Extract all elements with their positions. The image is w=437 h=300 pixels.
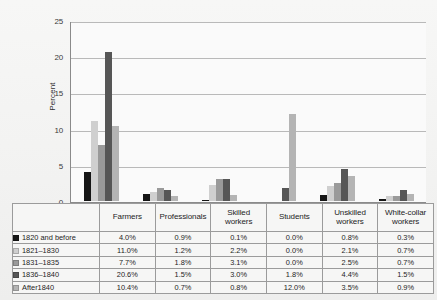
table-value-cell: 0.8%: [322, 232, 378, 244]
table-column-header-line: Farmers: [113, 212, 142, 221]
table-column-header: White-collarworkers: [378, 204, 434, 232]
table-column-header: Professionals: [155, 204, 211, 232]
chart-figure: Percent 0510152025 FarmersProfessionalsS…: [0, 0, 437, 300]
table-value-cell: 7.7%: [100, 256, 156, 268]
legend-label-cell: 1836–1840: [13, 269, 100, 281]
table-value-cell: 4.0%: [100, 232, 156, 244]
table-value-cell: 2.1%: [322, 244, 378, 256]
table-value-cell: 2.5%: [322, 256, 378, 268]
table-column-header-line: White-collar: [385, 208, 426, 217]
bar: [98, 145, 105, 201]
data-table: FarmersProfessionalsSkilledworkersStuden…: [12, 203, 434, 294]
bar: [348, 176, 355, 201]
legend-swatch-icon: [13, 272, 19, 278]
bar: [320, 195, 327, 201]
bar: [379, 199, 386, 201]
table-value-cell: 0.8%: [211, 281, 267, 293]
table-body: 1820 and before4.0%0.9%0.1%0.0%0.8%0.3%1…: [13, 232, 434, 294]
bar-group: [308, 22, 367, 201]
bar: [171, 196, 178, 201]
table-value-cell: 1.5%: [378, 269, 434, 281]
table-column-header: Farmers: [100, 204, 156, 232]
bar: [393, 196, 400, 201]
table-value-cell: 0.7%: [155, 281, 211, 293]
bar: [407, 194, 414, 201]
bar: [230, 195, 237, 201]
table-column-header: Unskilledworkers: [322, 204, 378, 232]
bar: [216, 179, 223, 201]
bar-group: [131, 22, 190, 201]
legend-label-cell: 1831–1835: [13, 256, 100, 268]
plot-area: [70, 22, 426, 203]
table-value-cell: 3.1%: [211, 256, 267, 268]
table-value-cell: 10.4%: [100, 281, 156, 293]
bar: [202, 200, 209, 201]
legend-swatch-icon: [13, 285, 19, 291]
table-column-header-line: workers: [225, 217, 252, 226]
table-value-cell: 0.0%: [266, 256, 322, 268]
legend-label: 1820 and before: [22, 233, 76, 242]
y-axis-tick-label: 15: [39, 90, 63, 98]
bar: [164, 190, 171, 201]
bar: [84, 172, 91, 201]
table-value-cell: 12.0%: [266, 281, 322, 293]
bar: [209, 185, 216, 201]
bar: [400, 190, 407, 201]
legend-swatch-icon: [13, 248, 19, 254]
bar: [334, 183, 341, 201]
bar: [289, 114, 296, 201]
y-axis-tick-label: 25: [39, 18, 63, 26]
table-column-header-line: workers: [336, 217, 363, 226]
y-axis-tick-label: 20: [39, 54, 63, 62]
table-value-cell: 20.6%: [100, 269, 156, 281]
table-value-cell: 3.5%: [322, 281, 378, 293]
table-value-cell: 0.9%: [378, 281, 434, 293]
legend-label: 1821–1830: [22, 246, 59, 255]
bar-group: [190, 22, 249, 201]
table-value-cell: 1.8%: [266, 269, 322, 281]
legend-label: 1836–1840: [22, 270, 59, 279]
table-value-cell: 11.0%: [100, 244, 156, 256]
table-value-cell: 0.7%: [378, 244, 434, 256]
legend-label: 1831–1835: [22, 258, 59, 267]
bar-group: [72, 22, 131, 201]
table-value-cell: 0.9%: [155, 232, 211, 244]
table-row: 1820 and before4.0%0.9%0.1%0.0%0.8%0.3%: [13, 232, 434, 244]
table-value-cell: 1.5%: [155, 269, 211, 281]
bar: [341, 169, 348, 201]
y-axis-tick-label: 5: [39, 163, 63, 171]
table-value-cell: 0.1%: [211, 232, 267, 244]
bar: [327, 186, 334, 201]
legend-label: After1840: [22, 283, 54, 292]
table-header-row: FarmersProfessionalsSkilledworkersStuden…: [13, 204, 434, 232]
table-value-cell: 4.4%: [322, 269, 378, 281]
bar: [157, 188, 164, 201]
bar: [150, 192, 157, 201]
legend-label-cell: After1840: [13, 281, 100, 293]
table-value-cell: 0.0%: [266, 244, 322, 256]
table-value-cell: 1.2%: [155, 244, 211, 256]
table-value-cell: 0.0%: [266, 232, 322, 244]
table-value-cell: 0.7%: [378, 256, 434, 268]
bar: [112, 126, 119, 201]
table-value-cell: 2.2%: [211, 244, 267, 256]
bar: [91, 121, 98, 201]
legend-label-cell: 1820 and before: [13, 232, 100, 244]
bar: [105, 52, 112, 201]
table-value-cell: 3.0%: [211, 269, 267, 281]
table-column-header-line: Unskilled: [334, 208, 366, 217]
table-column-header-line: Students: [279, 212, 310, 221]
legend-swatch-icon: [13, 260, 19, 266]
table-column-header: Skilledworkers: [211, 204, 267, 232]
table-row: 1836–184020.6%1.5%3.0%1.8%4.4%1.5%: [13, 269, 434, 281]
bar: [282, 188, 289, 201]
table-corner-cell: [13, 204, 100, 232]
bar: [386, 196, 393, 201]
table-head: FarmersProfessionalsSkilledworkersStuden…: [13, 204, 434, 232]
table-column-header: Students: [266, 204, 322, 232]
y-axis-tick-label: 10: [39, 127, 63, 135]
table-row: 1831–18357.7%1.8%3.1%0.0%2.5%0.7%: [13, 256, 434, 268]
table-value-cell: 0.3%: [378, 232, 434, 244]
bar-group: [367, 22, 426, 201]
bar: [143, 194, 150, 201]
